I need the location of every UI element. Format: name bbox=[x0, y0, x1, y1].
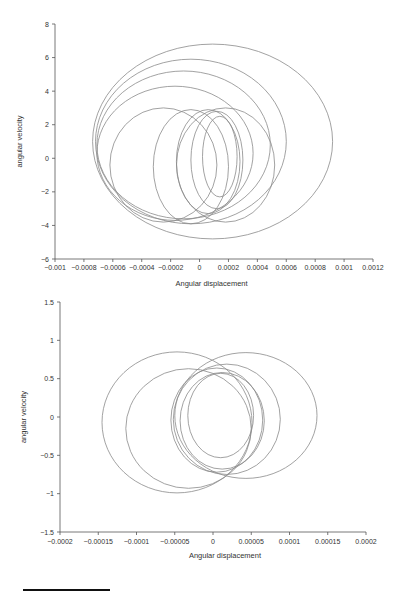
trajectory-loop bbox=[188, 373, 254, 457]
x-tick-label: −0.0008 bbox=[71, 264, 97, 271]
x-tick-label: −0.0006 bbox=[100, 264, 126, 271]
y-tick-label: −6 bbox=[41, 256, 49, 263]
x-tick-label: −0.0004 bbox=[129, 264, 155, 271]
x-tick-label: 0 bbox=[198, 264, 202, 271]
y-tick-label: −4 bbox=[41, 222, 49, 229]
x-tick-label: −0.001 bbox=[44, 264, 66, 271]
x-tick-label: 0.0002 bbox=[218, 264, 240, 271]
y-tick-label: 2 bbox=[45, 121, 49, 128]
y-tick-label: 0 bbox=[50, 414, 54, 421]
chart-top-phase-portrait: −6−4−202468−0.001−0.0008−0.0006−0.0004−0… bbox=[15, 21, 384, 289]
x-tick-label: 0.0012 bbox=[362, 264, 384, 271]
y-tick-label: −1 bbox=[46, 490, 54, 497]
footnote-rule bbox=[23, 589, 110, 591]
y-axis-label: angular velocity bbox=[15, 115, 24, 167]
x-tick-label: −0.00015 bbox=[84, 538, 113, 545]
x-axis-label: Angular displacement bbox=[189, 551, 262, 560]
y-tick-label: 0 bbox=[45, 155, 49, 162]
x-tick-label: −0.0001 bbox=[124, 538, 150, 545]
y-tick-label: 4 bbox=[45, 88, 49, 95]
phase-portrait-figure: −6−4−202468−0.001−0.0008−0.0006−0.0004−0… bbox=[0, 0, 406, 592]
x-tick-label: 0.0001 bbox=[279, 538, 301, 545]
x-tick-label: 0.0004 bbox=[247, 264, 269, 271]
chart-bottom-phase-portrait: −1.5−1−0.500.511.5−0.0002−0.00015−0.0001… bbox=[19, 299, 377, 561]
y-tick-label: 6 bbox=[45, 54, 49, 61]
y-axis-label: angular velocity bbox=[19, 391, 28, 443]
trajectory-loop bbox=[175, 353, 317, 479]
x-tick-label: 0.0008 bbox=[304, 264, 326, 271]
y-tick-label: 1 bbox=[50, 337, 54, 344]
y-tick-label: −2 bbox=[41, 188, 49, 195]
y-tick-label: 1.5 bbox=[44, 299, 54, 306]
x-tick-label: −0.0002 bbox=[158, 264, 184, 271]
x-axis-label: Angular displacement bbox=[175, 279, 248, 288]
x-tick-label: 0.00005 bbox=[239, 538, 264, 545]
trajectory-loop bbox=[97, 71, 270, 219]
y-tick-label: −1.5 bbox=[40, 529, 54, 536]
x-tick-label: 0.00015 bbox=[315, 538, 340, 545]
x-tick-label: 0.0006 bbox=[276, 264, 298, 271]
x-tick-label: −0.00005 bbox=[160, 538, 189, 545]
trajectory-curves bbox=[102, 352, 317, 493]
y-tick-label: 0.5 bbox=[44, 375, 54, 382]
x-tick-label: −0.0002 bbox=[47, 538, 73, 545]
x-tick-label: 0 bbox=[211, 538, 215, 545]
trajectory-curves bbox=[93, 44, 333, 239]
y-tick-label: −0.5 bbox=[40, 452, 54, 459]
y-tick-label: 8 bbox=[45, 21, 49, 28]
x-tick-label: 0.001 bbox=[335, 264, 353, 271]
x-tick-label: 0.0002 bbox=[355, 538, 377, 545]
trajectory-loop bbox=[203, 116, 238, 197]
